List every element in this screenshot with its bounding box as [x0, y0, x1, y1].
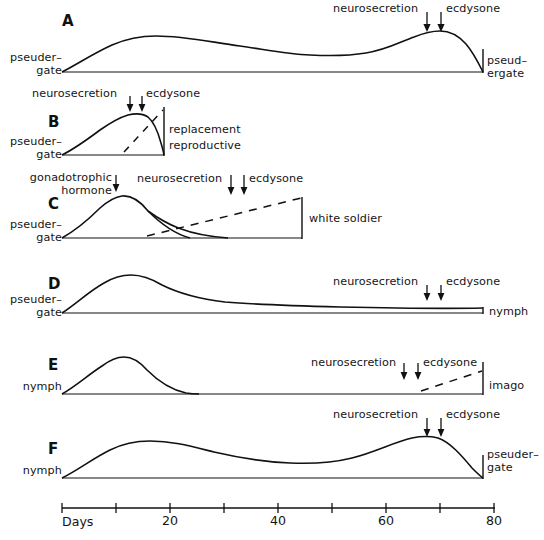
panel-d-curve: [62, 275, 483, 313]
panel-c-label-ecdysone: ecdysone: [249, 173, 303, 186]
panel-a-arrow-ecdysone: [437, 12, 444, 32]
panel-e-curve: [62, 357, 199, 394]
panel-a-end-label-line2: ergate: [487, 68, 524, 81]
panel-b-arrow-neurosecretion: [127, 96, 134, 112]
panel-d-start-label-line2: gate: [0, 307, 62, 320]
panel-c-start-label-line1: pseuder–: [0, 219, 62, 232]
axis-tick-label-60: 60: [366, 513, 406, 528]
panel-c-end-label: white soldier: [309, 213, 382, 226]
panel-f-label-ecdysone: ecdysone: [446, 409, 500, 422]
axis-label-days: Days: [62, 514, 93, 529]
panel-c-arrow-ecdysone: [241, 175, 248, 195]
panel-b-label-ecdysone: ecdysone: [146, 88, 200, 101]
panel-b-label-neurosecretion: neurosecretion: [32, 88, 117, 101]
panel-f-end-label-line2: gate: [487, 462, 513, 475]
panel-c-curve: [62, 196, 190, 238]
panel-a-start-label-line1: pseuder–: [0, 52, 62, 65]
panel-b-end-label-line1: replacement: [169, 124, 241, 137]
panel-e-arrow-neurosecretion: [401, 363, 408, 380]
panel-d-label-ecdysone: ecdysone: [446, 276, 500, 289]
panel-f-arrow-ecdysone: [438, 418, 445, 437]
panel-letter-b: B: [48, 113, 60, 131]
panel-a: [62, 12, 483, 73]
panel-e-end-label: imago: [489, 380, 524, 393]
panel-letter-f: F: [48, 440, 58, 458]
panel-d-arrow-neurosecretion: [424, 285, 431, 301]
hormone-titre-diagram: [0, 0, 544, 540]
panel-b-curve: [62, 114, 164, 155]
axis-tick-label-20: 20: [150, 513, 190, 528]
panel-f-label-neurosecretion: neurosecretion: [333, 409, 418, 422]
panel-a-arrow-neurosecretion: [423, 12, 430, 32]
panel-a-label-neurosecretion: neurosecretion: [333, 3, 418, 16]
panel-f: [62, 418, 483, 479]
panel-letter-e: E: [48, 356, 58, 374]
panel-d: [62, 275, 483, 314]
panel-d-start-label-line1: pseuder–: [0, 294, 62, 307]
panel-b-arrow-ecdysone: [139, 96, 146, 112]
panel-letter-d: D: [48, 275, 61, 293]
panel-e-start-label: nymph: [0, 381, 62, 394]
panel-f-end-label-line1: pseuder–: [487, 449, 539, 462]
axis-tick-label-80: 80: [474, 513, 514, 528]
panel-e-dashed-line: [421, 371, 482, 391]
panel-d-label-neurosecretion: neurosecretion: [333, 276, 418, 289]
panel-letter-c: C: [48, 195, 59, 213]
panel-d-end-label: nymph: [489, 306, 528, 319]
panel-c-arrow-neurosecretion: [228, 175, 235, 195]
panel-b-start-label-line2: gate: [0, 149, 62, 162]
panel-f-curve: [62, 437, 483, 479]
panel-c-dashed-line: [147, 198, 301, 236]
axis-tick-label-40: 40: [258, 513, 298, 528]
panel-c-arrow-gonadotrophic-hormone: [113, 175, 120, 192]
panel-c-label-gonadotrophic-line2: hormone: [8, 185, 112, 198]
panel-a-curve: [62, 31, 483, 72]
panel-c-label-neurosecretion: neurosecretion: [137, 173, 222, 186]
panel-a-label-ecdysone: ecdysone: [446, 3, 500, 16]
panel-e-label-neurosecretion: neurosecretion: [311, 357, 396, 370]
panel-f-start-label: nymph: [0, 465, 62, 478]
panel-a-start-label-line2: gate: [0, 65, 62, 78]
panel-e: [62, 357, 483, 395]
panel-f-arrow-neurosecretion: [424, 418, 431, 437]
panel-d-arrow-ecdysone: [438, 285, 445, 301]
panel-c-start-label-line2: gate: [0, 232, 62, 245]
x-axis: [62, 503, 495, 513]
panel-b: [62, 96, 164, 156]
panel-e-arrow-ecdysone: [415, 363, 422, 380]
panel-b-end-label-line2: reproductive: [169, 140, 241, 153]
panel-b-start-label-line1: pseuder–: [0, 136, 62, 149]
panel-c-curve-tail: [148, 211, 228, 238]
panel-e-label-ecdysone: ecdysone: [423, 357, 477, 370]
panel-a-end-label-line1: pseud–: [487, 55, 527, 68]
panel-letter-a: A: [62, 12, 74, 30]
panel-c-label-gonadotrophic-line1: gonadotrophic: [8, 172, 112, 185]
